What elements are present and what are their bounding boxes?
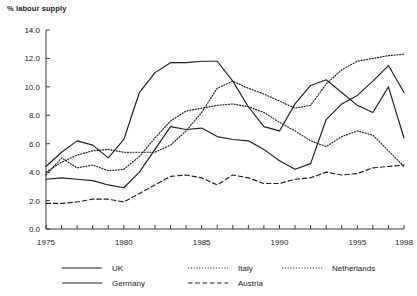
series-line-netherlands <box>46 104 404 175</box>
y-tick-label: 14.0 <box>24 26 40 35</box>
y-tick-label: 6.0 <box>29 140 41 149</box>
legend-label-netherlands: Netherlands <box>332 264 375 273</box>
legend-label-austria: Austria <box>238 279 263 288</box>
x-tick-label: 1990 <box>271 238 289 247</box>
y-tick-label: 0.0 <box>29 225 41 234</box>
y-tick-label: 8.0 <box>29 111 41 120</box>
data-series-group <box>46 54 404 203</box>
x-tick-label: 1980 <box>115 238 133 247</box>
x-tick-label: 1985 <box>193 238 211 247</box>
legend-label-italy: Italy <box>238 264 253 273</box>
y-tick-label: 4.0 <box>29 168 41 177</box>
series-line-germany <box>46 66 404 188</box>
y-tick-label: 12.0 <box>24 54 40 63</box>
legend-label-germany: Germany <box>112 279 145 288</box>
series-line-austria <box>46 165 404 203</box>
legend-label-uk: UK <box>112 264 124 273</box>
x-tick-label: 1975 <box>37 238 55 247</box>
y-tick-label: 10.0 <box>24 83 40 92</box>
chart-legend: UKGermanyItalyAustriaNetherlands <box>62 264 375 288</box>
chart-container: % labour supply 0.02.04.06.08.010.012.01… <box>0 0 417 296</box>
x-tick-label: 1995 <box>348 238 366 247</box>
x-axis-ticks: 197519801985199019951998 <box>37 225 413 247</box>
line-chart-plot: 0.02.04.06.08.010.012.014.0 197519801985… <box>0 0 417 296</box>
x-tick-label: 1998 <box>395 238 413 247</box>
y-tick-label: 2.0 <box>29 197 41 206</box>
